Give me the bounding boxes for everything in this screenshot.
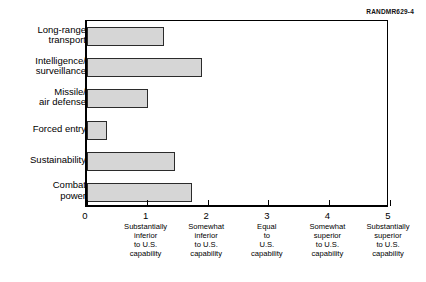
figure-id-label: RANDMR629-4 bbox=[366, 8, 414, 15]
tick-mark bbox=[268, 200, 269, 206]
category-label: Long-range transport bbox=[0, 25, 86, 46]
bar bbox=[87, 89, 148, 108]
bar-row bbox=[87, 89, 387, 108]
x-tick-group: 5Substantially superior to U.S. capabili… bbox=[350, 210, 426, 258]
bar bbox=[87, 27, 164, 46]
bar-row bbox=[87, 183, 387, 202]
bar-row bbox=[87, 152, 387, 171]
bar-row bbox=[87, 27, 387, 46]
category-label: Sustainability bbox=[0, 155, 86, 166]
tick-mark bbox=[390, 200, 391, 206]
tick-mark bbox=[147, 200, 148, 206]
bar bbox=[87, 58, 202, 77]
bar-series bbox=[87, 21, 387, 205]
category-label: Intelligence/ surveillance bbox=[0, 56, 86, 77]
tick-mark bbox=[87, 200, 88, 206]
bar bbox=[87, 121, 107, 140]
tick-mark bbox=[208, 200, 209, 206]
tick-mark bbox=[329, 200, 330, 206]
chart-figure: RANDMR629-4 Long-range transportIntellig… bbox=[0, 0, 426, 282]
x-tick-caption: Substantially superior to U.S. capabilit… bbox=[350, 222, 426, 258]
category-label: Forced entry bbox=[0, 124, 86, 135]
bar-row bbox=[87, 121, 387, 140]
x-tick-number: 5 bbox=[350, 210, 426, 221]
category-label: Combat power bbox=[0, 180, 86, 201]
bar-row bbox=[87, 58, 387, 77]
plot-area bbox=[85, 20, 388, 207]
bar bbox=[87, 183, 192, 202]
category-label: Missile/ air defense bbox=[0, 87, 86, 108]
bar bbox=[87, 152, 175, 171]
